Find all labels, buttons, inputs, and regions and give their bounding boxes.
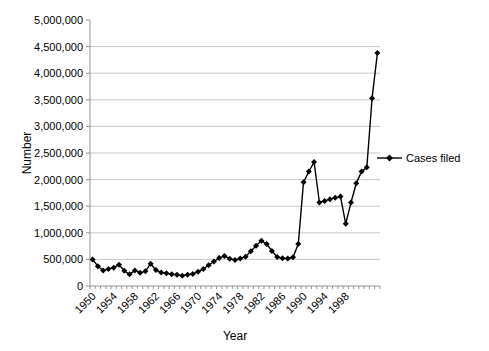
x-axis-tick-label: 1974 [199,290,225,316]
x-axis-tick-labels: 1950195419581962196619701974197819821986… [72,290,351,316]
legend: Cases filed [377,152,460,164]
cases-filed-line [93,53,378,276]
data-point-1998 [343,221,349,227]
y-axis-tick-label: 3,000,000 [34,120,83,132]
data-point-1997 [337,194,343,200]
data-point-1991 [306,169,312,175]
data-point-2000 [353,180,359,186]
data-point-1959 [137,270,143,276]
data-point-1965 [169,271,175,277]
x-axis-tick-label: 1962 [136,290,162,316]
y-axis-tick-label: 3,500,000 [34,94,83,106]
data-point-1989 [295,241,301,247]
y-axis-tick-label: 2,000,000 [34,174,83,186]
data-point-1992 [311,159,317,165]
data-point-1975 [221,253,227,259]
data-point-1970 [195,269,201,275]
x-axis-tick-label: 1982 [241,290,267,316]
x-axis-title: Year [223,329,247,343]
y-axis-title: Number [20,132,34,175]
data-point-1977 [232,257,238,263]
gridlines [90,47,380,260]
y-axis-tick-label: 1,500,000 [34,200,83,212]
y-axis-tick-label: 4,500,000 [34,41,83,53]
data-point-1994 [322,198,328,204]
y-axis-tick-label: 5,000,000 [34,14,83,26]
y-axis-tick-labels: 0500,0001,000,0001,500,0002,000,0002,500… [34,14,83,292]
chart-figure: 0500,0001,000,0001,500,0002,000,0002,500… [0,0,489,351]
data-point-1967 [179,273,185,279]
data-point-1963 [158,269,164,275]
data-point-1987 [285,256,291,262]
data-point-1966 [174,272,180,278]
cases-filed-series [90,50,381,279]
data-point-1953 [105,266,111,272]
data-point-1976 [227,256,233,262]
data-point-1969 [190,271,196,277]
data-point-1968 [185,272,191,278]
data-point-1986 [279,255,285,261]
y-axis-ticks [86,20,90,286]
data-point-2003 [369,95,375,101]
x-axis-tick-label: 1970 [178,290,204,316]
data-point-1995 [327,196,333,202]
legend-label: Cases filed [406,152,460,164]
x-axis-tick-label: 1986 [262,290,288,316]
x-axis-tick-label: 1990 [283,290,309,316]
legend-diamond-marker-icon [386,155,393,162]
y-axis-tick-label: 1,000,000 [34,227,83,239]
data-point-1999 [348,199,354,205]
x-axis-tick-label: 1958 [114,290,140,316]
data-point-1978 [237,256,243,262]
x-axis-tick-label: 1954 [93,290,119,316]
data-point-1996 [332,195,338,201]
y-axis-tick-label: 0 [77,280,83,292]
data-point-1993 [316,199,322,205]
data-point-1964 [163,270,169,276]
data-point-2004 [374,50,380,56]
x-axis-tick-label: 1950 [72,290,98,316]
x-axis-tick-label: 1978 [220,290,246,316]
chart-canvas: 0500,0001,000,0001,500,0002,000,0002,500… [0,0,489,351]
y-axis-tick-label: 4,000,000 [34,67,83,79]
x-axis-tick-label: 1998 [325,290,351,316]
data-point-1990 [301,179,307,185]
y-axis-tick-label: 2,500,000 [34,147,83,159]
x-axis-tick-label: 1966 [157,290,183,316]
x-axis-tick-label: 1994 [304,290,330,316]
data-point-1954 [111,265,117,271]
y-axis-tick-label: 500,000 [43,253,83,265]
